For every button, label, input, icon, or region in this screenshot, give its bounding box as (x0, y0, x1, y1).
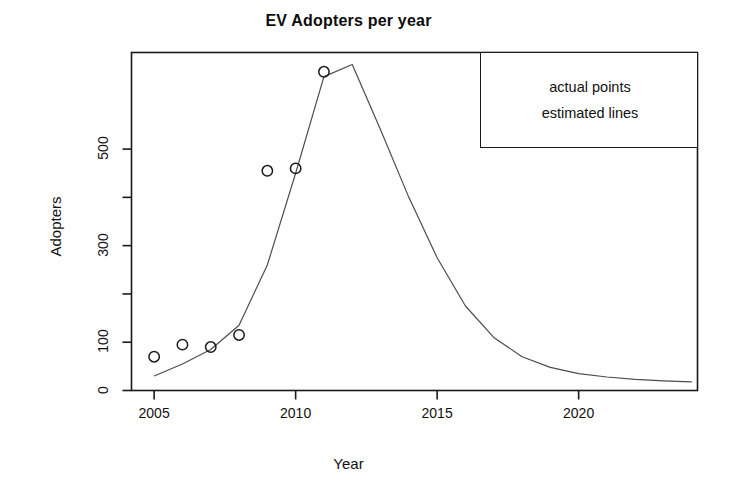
y-tick-label: 300 (95, 225, 111, 265)
y-tick-label: 0 (95, 370, 111, 410)
chart-legend: actual points estimated lines (480, 52, 698, 148)
x-tick-label: 2015 (407, 405, 467, 421)
x-axis-title: Year (0, 455, 737, 472)
x-tick-label: 2010 (266, 405, 326, 421)
y-tick-label: 100 (95, 321, 111, 361)
x-axis-title-text: Year (333, 455, 363, 472)
x-tick-label: 2005 (124, 405, 184, 421)
x-tick-label: 2020 (549, 405, 609, 421)
chart-figure: EV Adopters per year Year Adopters 20052… (0, 0, 737, 496)
y-axis-ticks (123, 149, 132, 390)
y-axis-title: Adopters (47, 167, 64, 287)
y-tick-label: 500 (95, 128, 111, 168)
legend-entry-estimated-lines: estimated lines (481, 105, 699, 121)
legend-entry-actual-points: actual points (481, 79, 699, 95)
x-axis-ticks (154, 391, 579, 400)
